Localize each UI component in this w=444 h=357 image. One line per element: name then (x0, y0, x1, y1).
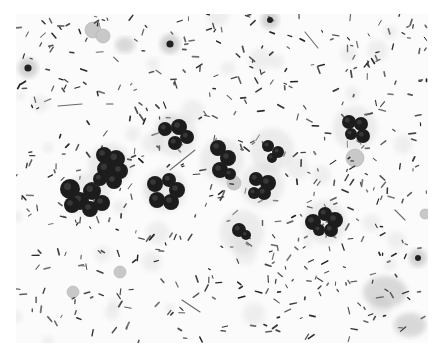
bacterial-rod (116, 229, 118, 230)
bacterial-rod (289, 86, 292, 88)
bacterial-rod (367, 190, 368, 192)
neutrophil-lobe (267, 153, 277, 163)
bacterial-rod (348, 157, 350, 158)
bacterial-rod (221, 331, 225, 332)
micrograph-image (0, 0, 444, 357)
stain-halo (43, 143, 53, 153)
debris-patch (115, 37, 135, 53)
bacterial-rod (262, 72, 265, 74)
bacterial-rod (305, 267, 307, 270)
bacterial-rod (99, 91, 105, 93)
bacterial-rod (272, 235, 275, 238)
lobe-texture (85, 204, 91, 210)
bacterial-rod (64, 80, 67, 83)
bacterial-rod (140, 114, 144, 120)
bacterial-rod (319, 292, 321, 296)
bacterial-rod (65, 252, 66, 255)
bacterial-rod (310, 315, 315, 316)
bacterial-rod (333, 35, 339, 36)
bacterial-rod (70, 52, 74, 53)
bacterial-rod (66, 24, 69, 26)
bacterial-rod (425, 25, 426, 27)
bacterial-rod (351, 71, 352, 78)
lobe-texture (274, 148, 278, 152)
bacterial-rod (395, 274, 397, 276)
bacterial-rod (244, 147, 249, 151)
bacterial-rod (239, 296, 245, 298)
bacterial-rod (343, 267, 345, 268)
bacterial-rod (118, 85, 120, 90)
bacterial-rod (167, 165, 169, 167)
bacterial-rod (120, 188, 121, 190)
bacterial-rod (360, 182, 361, 185)
bacterial-rod (318, 65, 324, 66)
bacterial-rod (209, 269, 211, 270)
bacterial-rod (29, 214, 32, 216)
bacterial-rod (309, 260, 314, 262)
bacterial-rod (350, 180, 354, 185)
bacterial-rod (139, 238, 145, 240)
bacterial-rod (381, 196, 382, 200)
bacterial-rod (29, 160, 32, 166)
bacterial-rod (146, 108, 147, 110)
bacterial-rod (357, 219, 359, 221)
stain-halo (384, 258, 396, 270)
bacterial-rod (222, 326, 227, 327)
bacterial-rod (412, 139, 417, 141)
bacterial-rod (290, 303, 297, 304)
bacterial-rod (384, 72, 385, 76)
stain-halo (206, 14, 229, 26)
bacterial-rod (305, 236, 308, 237)
bacterial-rod (388, 94, 393, 95)
lobe-texture (269, 155, 273, 159)
bacterial-rod (238, 141, 242, 143)
bacterial-rod (221, 28, 222, 32)
neutrophil-lobe (354, 117, 368, 131)
bacterial-rod (368, 314, 373, 316)
bacterial-rod (197, 64, 202, 68)
bacterial-rod (142, 29, 144, 35)
bacterial-rod (272, 253, 274, 259)
lobe-texture (101, 164, 107, 170)
stain-halo (94, 246, 111, 263)
bacterial-rod (347, 169, 348, 171)
bacterial-rod (52, 86, 54, 91)
stain-halo (42, 336, 54, 343)
bacterial-rod (75, 220, 76, 223)
bacterial-rod (44, 268, 50, 270)
bacterial-rod (231, 77, 237, 79)
bacterial-rod (348, 208, 353, 210)
neutrophil-lobe (356, 129, 370, 143)
bacterial-rod (317, 278, 323, 282)
bacterial-rod (392, 44, 393, 50)
bacterial-rod (48, 317, 52, 322)
bacterial-rod (161, 279, 164, 282)
filament (305, 32, 318, 48)
bacterial-rod (42, 21, 45, 24)
lobe-texture (97, 198, 103, 204)
bacterial-rod (221, 246, 223, 247)
bacterial-rod (109, 218, 110, 221)
bacterial-rod (104, 131, 108, 136)
bacterial-rod (210, 195, 213, 196)
bacterial-rod (205, 285, 208, 291)
bacterial-rod (77, 170, 81, 171)
bacterial-rod (251, 21, 256, 25)
bacterial-rod (327, 283, 328, 285)
bacterial-rod (258, 111, 265, 112)
bacterial-rod (79, 266, 85, 267)
lobe-texture (115, 166, 121, 172)
bacterial-rod (348, 238, 353, 239)
lobe-texture (64, 183, 71, 190)
bacterial-rod (55, 321, 57, 326)
bacterial-rod (374, 317, 376, 320)
bacterial-rod (26, 163, 27, 168)
bacterial-rod (107, 18, 108, 20)
bacterial-rod (373, 158, 376, 160)
bacterial-rod (16, 27, 21, 28)
bacterial-rod (102, 20, 104, 21)
bacterial-rod (214, 29, 216, 31)
bacterial-rod (181, 164, 183, 165)
lobe-texture (315, 226, 319, 230)
bacterial-rod (331, 198, 336, 201)
